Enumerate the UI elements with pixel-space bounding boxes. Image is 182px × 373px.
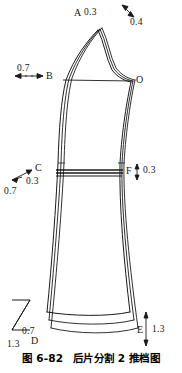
point-label-a: A [74,8,81,18]
chest-line [63,80,133,81]
value-a-horizontal: 0.3 [84,8,97,18]
value-b-horizontal: 0.7 [17,64,30,74]
point-label-f: F [126,166,132,176]
value-e-vertical: 1.3 [152,325,165,335]
point-label-o: O [136,75,143,85]
dimension-arrow-b [15,74,43,79]
dimension-arrow-e [144,312,148,346]
value-c-diagonal: 0.3 [26,177,39,187]
figure-caption: 图 6-82 后片分割 2 推档图 [0,352,182,365]
pattern-grading-figure: A 0.3 0.4 0.7 B O C 0.3 0.7 F 0.3 0.7 1.… [0,0,182,373]
point-label-b: B [46,71,53,81]
point-label-e: E [137,325,143,335]
value-f-vertical: 0.3 [143,166,156,176]
point-label-c: C [35,163,42,173]
value-a-diagonal: 0.4 [130,18,143,28]
point-label-d: D [31,336,38,346]
figure-caption-text: 后片分割 2 推档图 [73,352,160,364]
waist-line [56,170,123,176]
figure-caption-number: 图 6-82 [22,352,63,364]
dimension-arrow-a [122,5,134,17]
pattern-drawing [0,0,182,373]
value-c-horizontal: 0.7 [4,187,17,197]
value-d-diagonal-lower: 1.3 [7,340,20,350]
graded-outline-size-3 [51,28,138,333]
dimension-arrow-f [135,164,139,180]
